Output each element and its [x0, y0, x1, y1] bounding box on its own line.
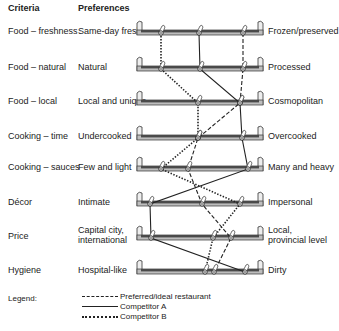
legend-label-text: Preferred/ideal restaurant — [120, 292, 211, 301]
legend-label: Legend: — [8, 294, 37, 303]
legend-item: Competitor B — [82, 312, 167, 321]
legend-line-dashed — [82, 296, 118, 297]
legend-label-text: Competitor B — [120, 312, 167, 321]
slider-bar — [137, 157, 263, 171]
legend-line-dotted — [82, 316, 118, 318]
slider-bar — [137, 226, 263, 240]
legend-label-text: Competitor A — [120, 302, 166, 311]
legend-item: Preferred/ideal restaurant — [82, 292, 211, 301]
legend-line-solid — [82, 306, 118, 307]
legend-item: Competitor A — [82, 302, 166, 311]
